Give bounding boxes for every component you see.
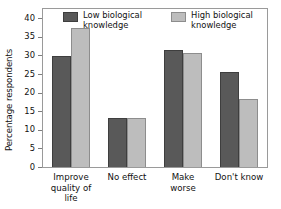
y-tick-label: 30 (24, 49, 35, 62)
y-tick-label: 0 (30, 161, 35, 174)
y-tick-label: 15 (24, 105, 35, 118)
bar (220, 72, 239, 167)
bar-chart: Percentage respondents 0510152025303540 … (0, 0, 281, 209)
x-axis-label: Improve quality of life (43, 172, 99, 204)
bar-group (211, 9, 267, 167)
y-tick-label: 5 (30, 142, 35, 155)
bar (108, 118, 127, 167)
bar-group (155, 9, 211, 167)
y-tick-mark (38, 55, 42, 56)
y-tick-label: 10 (24, 123, 35, 136)
y-tick: 10 (0, 130, 42, 131)
y-tick: 30 (0, 55, 42, 56)
y-tick-mark (38, 37, 42, 38)
y-tick-mark (38, 74, 42, 75)
bar (52, 56, 71, 167)
legend-swatch (171, 12, 186, 22)
y-tick: 15 (0, 111, 42, 112)
bar (164, 50, 183, 167)
legend-item: Low biological knowledge (63, 11, 142, 30)
y-tick: 0 (0, 167, 42, 168)
y-tick: 35 (0, 37, 42, 38)
y-tick-label: 40 (24, 12, 35, 25)
y-tick-mark (38, 148, 42, 149)
y-tick-mark (38, 167, 42, 168)
y-tick: 20 (0, 93, 42, 94)
y-tick-label: 20 (24, 86, 35, 99)
legend-label: Low biological knowledge (83, 11, 142, 30)
y-tick-mark (38, 130, 42, 131)
y-tick-label: 25 (24, 68, 35, 81)
y-tick: 40 (0, 18, 42, 19)
legend-swatch (63, 12, 78, 22)
y-tick-mark (38, 93, 42, 94)
y-tick-label: 35 (24, 30, 35, 43)
bar (183, 53, 202, 167)
y-axis-title: Percentage respondents (2, 15, 16, 185)
x-axis-label: Don't know (211, 172, 267, 183)
bar-group (43, 9, 99, 167)
legend-item: High biological knowledge (171, 11, 253, 30)
bar (127, 118, 146, 167)
bar (239, 99, 258, 167)
bars-layer (43, 9, 267, 167)
x-axis-label: Make worse (155, 172, 211, 193)
y-tick-mark (38, 18, 42, 19)
x-axis-label: No effect (99, 172, 155, 183)
y-tick: 25 (0, 74, 42, 75)
legend: Low biological knowledgeHigh biological … (63, 11, 253, 30)
bar-group (99, 9, 155, 167)
bar (71, 28, 90, 167)
y-tick: 5 (0, 148, 42, 149)
legend-label: High biological knowledge (191, 11, 253, 30)
y-tick-mark (38, 111, 42, 112)
